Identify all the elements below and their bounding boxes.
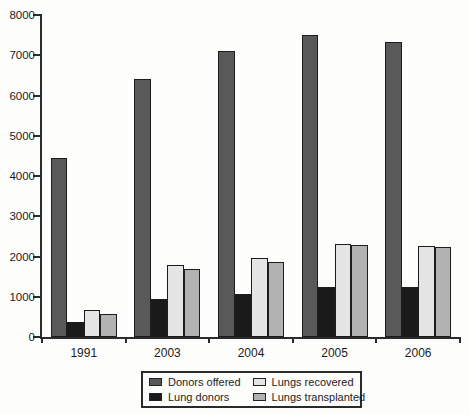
x-axis-category-label: 2003 <box>126 346 210 360</box>
bar-lungs-recovered-2004 <box>251 258 268 337</box>
y-axis-tick-label: 0 <box>0 330 35 344</box>
y-axis-tick-label: 5000 <box>0 129 35 143</box>
bar-lungs-transplanted-2006 <box>435 247 452 337</box>
bar-lungs-transplanted-2005 <box>351 245 368 337</box>
y-axis-tick-label: 1000 <box>0 290 35 304</box>
bar-lung-donors-1991 <box>67 322 84 337</box>
legend-swatch-lungs-recovered <box>253 378 266 386</box>
x-axis-tick <box>41 337 43 343</box>
x-axis-tick <box>208 337 210 343</box>
legend-label: Lung donors <box>168 391 229 403</box>
bar-lungs-transplanted-2004 <box>268 262 285 337</box>
legend-item-lung-donors: Lung donors <box>149 391 241 403</box>
y-axis-tick-label: 7000 <box>0 48 35 62</box>
x-axis-tick <box>125 337 127 343</box>
y-axis-tick-label: 6000 <box>0 89 35 103</box>
lung-donation-bar-chart: 0100020003000400050006000700080001991200… <box>0 0 469 415</box>
legend-label: Donors offered <box>168 376 241 388</box>
bar-lungs-recovered-2006 <box>418 246 435 337</box>
bar-lung-donors-2004 <box>235 294 252 337</box>
bar-lung-donors-2005 <box>318 287 335 337</box>
bar-lungs-recovered-2005 <box>335 244 352 337</box>
bar-donors-offered-2004 <box>218 51 235 337</box>
y-axis-tick-label: 3000 <box>0 209 35 223</box>
x-axis-category-label: 2004 <box>209 346 293 360</box>
y-axis-tick-label: 8000 <box>0 8 35 22</box>
legend-item-lungs-transplanted: Lungs transplanted <box>253 391 366 403</box>
legend-item-lungs-recovered: Lungs recovered <box>253 376 366 388</box>
x-axis-tick <box>292 337 294 343</box>
legend-swatch-donors-offered <box>149 378 162 386</box>
legend-label: Lungs recovered <box>272 376 354 388</box>
bar-lung-donors-2003 <box>151 299 168 337</box>
x-axis-category-label: 2006 <box>376 346 460 360</box>
bar-donors-offered-1991 <box>51 158 68 337</box>
chart-legend: Donors offeredLung donorsLungs recovered… <box>141 371 362 408</box>
bar-lungs-recovered-1991 <box>84 310 101 337</box>
bar-donors-offered-2005 <box>302 35 319 337</box>
bar-lung-donors-2006 <box>402 287 419 337</box>
legend-swatch-lung-donors <box>149 393 162 401</box>
bar-donors-offered-2006 <box>385 42 402 337</box>
bar-donors-offered-2003 <box>134 79 151 337</box>
legend-swatch-lungs-transplanted <box>253 393 266 401</box>
y-axis-tick-label: 4000 <box>0 169 35 183</box>
bar-lungs-transplanted-1991 <box>100 314 117 337</box>
x-axis-category-label: 1991 <box>42 346 126 360</box>
x-axis-tick <box>375 337 377 343</box>
legend-label: Lungs transplanted <box>272 391 366 403</box>
y-axis <box>40 14 42 339</box>
y-axis-tick-label: 2000 <box>0 250 35 264</box>
bar-lungs-transplanted-2003 <box>184 269 201 337</box>
x-axis-tick <box>459 337 461 343</box>
legend-item-donors-offered: Donors offered <box>149 376 241 388</box>
bar-lungs-recovered-2003 <box>167 265 184 337</box>
x-axis-category-label: 2005 <box>293 346 377 360</box>
x-axis <box>40 337 460 339</box>
